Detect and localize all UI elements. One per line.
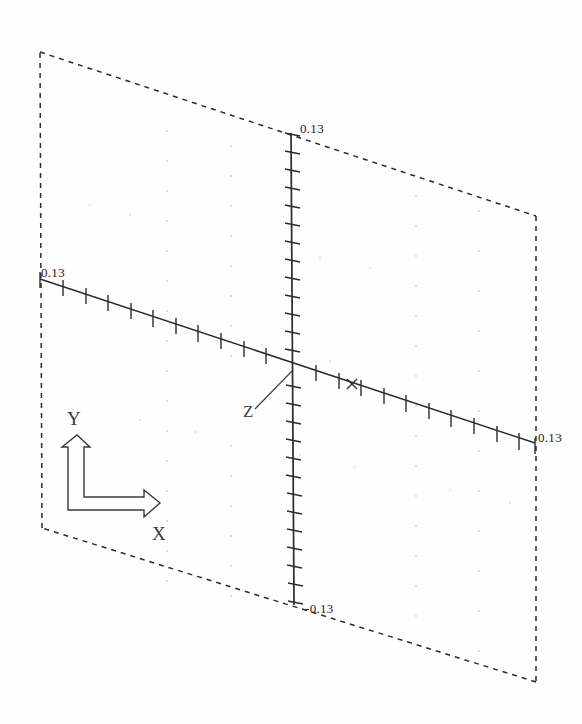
horizontal-axis-line (40, 279, 535, 443)
boundary-left-edge (40, 52, 42, 528)
triad-y-label: Y (67, 408, 81, 429)
axis-label-right: 0.13 (538, 430, 562, 445)
z-axis-label: Z (243, 402, 253, 421)
vertical-axis-line (291, 133, 294, 605)
axis-label-bottom: -0.13 (305, 601, 334, 616)
plot-canvas: 0.13 -0.13 0.13 0.13 Z Y X (0, 0, 582, 724)
triad-x-label: X (152, 523, 166, 544)
orientation-triad (62, 435, 160, 517)
triad-arrow-shape (62, 435, 160, 517)
plot-boundary (40, 52, 536, 682)
vertical-axis (291, 133, 294, 605)
horizontal-axis (40, 279, 535, 443)
horizontal-axis-ticks (40, 272, 535, 454)
coordinate-plot-svg: 0.13 -0.13 0.13 0.13 Z Y X (0, 0, 582, 724)
axis-label-left: 0.13 (41, 265, 65, 280)
boundary-bottom-edge (42, 528, 536, 682)
grid-dots (89, 130, 511, 652)
axis-label-top: 0.13 (300, 121, 324, 136)
